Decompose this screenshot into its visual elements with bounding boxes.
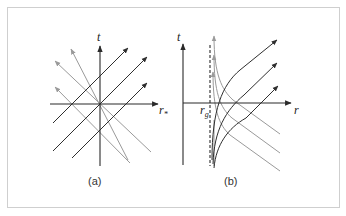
outgoing-ray [53,48,128,123]
panel-a-r-label-sub: * [164,110,168,119]
panel-a [50,46,158,166]
panel-a-t-label: t [97,31,100,43]
panel-b-t-label: t [177,31,180,43]
panel-a-caption: (a) [88,176,101,187]
panel-b-outgoing-rays [212,40,278,168]
panel-b-r-label: r [294,104,299,116]
panel-a-r-label: r* [159,104,168,119]
gravitational-radius-label: rg [200,104,209,119]
panel-b-caption: (b) [224,176,237,187]
outgoing-ray [213,63,277,164]
ingoing-ray [55,87,130,163]
rg-label-sub: g [205,110,209,119]
